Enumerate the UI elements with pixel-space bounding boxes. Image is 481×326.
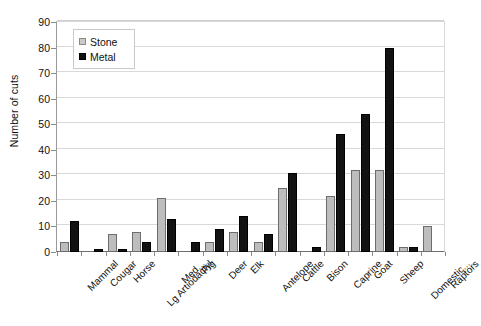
x-tick-mark (251, 252, 252, 256)
bar-group (227, 22, 251, 252)
bar-group (203, 22, 227, 252)
bar-stone (254, 242, 263, 252)
bar-stone (157, 198, 166, 252)
bar-stone (399, 247, 408, 252)
bar-stone (351, 170, 360, 252)
bar-group (372, 22, 396, 252)
bar-metal (409, 247, 418, 252)
bar-metal (167, 219, 176, 252)
bar-metal (385, 48, 394, 252)
bar-group (421, 22, 445, 252)
bar-stone (132, 232, 141, 252)
y-tick-label: 40 (10, 145, 50, 155)
bar-metal (336, 134, 345, 252)
x-category-label: Sheep (398, 258, 426, 286)
x-tick-mark (81, 252, 82, 256)
bar-stone (423, 226, 432, 252)
bar-stone (60, 242, 69, 252)
metal-swatch-icon (79, 53, 86, 60)
y-tick-label: 50 (10, 119, 50, 129)
bar-group (397, 22, 421, 252)
x-category-label: Deer (226, 258, 249, 281)
legend-label-metal: Metal (90, 51, 116, 63)
bar-group (300, 22, 324, 252)
stone-swatch-icon (79, 38, 86, 45)
y-tick-mark (51, 252, 56, 253)
legend-item-metal: Metal (79, 49, 130, 64)
bar-stone (108, 234, 117, 252)
x-tick-mark (397, 252, 398, 256)
gridline (57, 20, 444, 21)
y-tick-label: 30 (10, 170, 50, 180)
x-tick-mark (178, 252, 179, 256)
bar-stone (229, 232, 238, 252)
legend-label-stone: Stone (90, 36, 117, 48)
x-tick-mark (227, 252, 228, 256)
bar-group (251, 22, 275, 252)
bar-metal (215, 229, 224, 252)
y-tick-label: 60 (10, 94, 50, 104)
y-tick-label: 90 (10, 17, 50, 27)
bar-metal (288, 173, 297, 252)
bar-group (154, 22, 178, 252)
x-tick-mark (130, 252, 131, 256)
bar-metal (191, 242, 200, 252)
x-tick-mark (300, 252, 301, 256)
y-tick-label: 10 (10, 221, 50, 231)
y-tick-label: 80 (10, 43, 50, 53)
bar-metal (312, 247, 321, 252)
bar-stone (278, 188, 287, 252)
x-tick-mark (324, 252, 325, 256)
bar-stone (205, 242, 214, 252)
bar-metal (264, 234, 273, 252)
bar-metal (361, 114, 370, 252)
y-tick-label: 20 (10, 196, 50, 206)
x-tick-mark (154, 252, 155, 256)
bar-metal (94, 249, 103, 252)
y-tick-label: 70 (10, 68, 50, 78)
x-tick-mark (57, 252, 58, 256)
x-category-label: Elk (248, 258, 266, 276)
x-tick-mark (445, 252, 446, 256)
x-tick-mark (275, 252, 276, 256)
bar-group (348, 22, 372, 252)
bar-group (275, 22, 299, 252)
bar-metal (70, 221, 79, 252)
y-tick-label: 0 (10, 247, 50, 257)
bar-stone (326, 196, 335, 252)
x-category-label: Bison (324, 258, 349, 283)
legend-item-stone: Stone (79, 34, 130, 49)
bar-group (324, 22, 348, 252)
bar-group (178, 22, 202, 252)
x-tick-mark (372, 252, 373, 256)
x-tick-mark (203, 252, 204, 256)
legend: Stone Metal (73, 29, 135, 69)
bar-metal (142, 242, 151, 252)
bar-metal (118, 249, 127, 252)
bar-stone (375, 170, 384, 252)
x-tick-mark (421, 252, 422, 256)
bar-metal (239, 216, 248, 252)
x-tick-mark (348, 252, 349, 256)
x-tick-mark (106, 252, 107, 256)
